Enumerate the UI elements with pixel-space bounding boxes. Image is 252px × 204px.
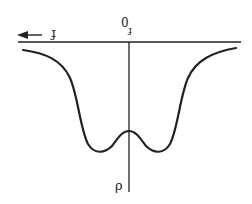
horizontal-axis-label: f xyxy=(50,27,56,42)
double-well-diagram: f 0 f ρ xyxy=(0,0,252,204)
left-arrow-icon xyxy=(17,31,42,39)
origin-label: 0 xyxy=(121,16,129,30)
vertical-axis-label: ρ xyxy=(115,178,123,193)
